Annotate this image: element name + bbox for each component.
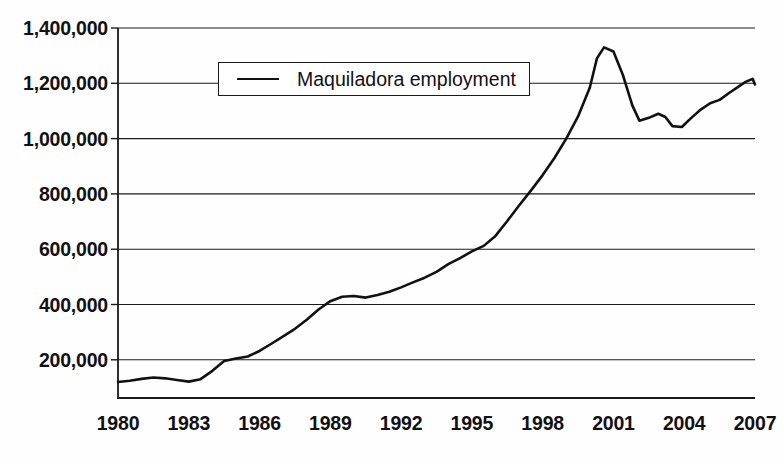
series-paths-group: [118, 47, 755, 382]
legend-label: Maquiladora employment: [297, 68, 516, 91]
data-line-1: [118, 47, 755, 382]
chart-legend: Maquiladora employment: [218, 62, 530, 96]
legend-line-swatch-icon: [237, 78, 279, 80]
chart-container: 1,400,0001,200,0001,000,000800,000600,00…: [0, 0, 784, 465]
